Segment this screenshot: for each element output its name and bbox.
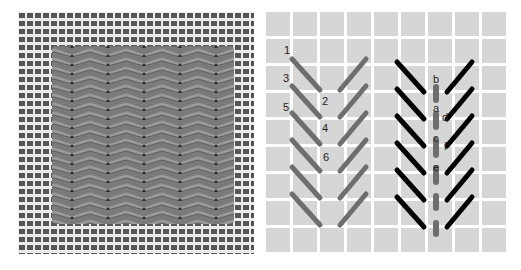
label-d: d xyxy=(442,111,448,123)
grid xyxy=(266,12,506,252)
label-5: 5 xyxy=(283,101,289,113)
label-6: 6 xyxy=(323,151,329,163)
label-e: e xyxy=(433,161,439,173)
stitched-canvas-photo xyxy=(18,12,254,254)
label-b: b xyxy=(433,73,439,85)
label-2: 2 xyxy=(322,95,328,107)
stitch-diagram: 1 2 3 4 5 6 xyxy=(262,8,512,260)
label-c: c xyxy=(433,132,439,144)
label-3: 3 xyxy=(283,72,289,84)
label-a: a xyxy=(433,102,440,114)
label-4: 4 xyxy=(322,122,328,134)
label-1: 1 xyxy=(284,44,290,56)
